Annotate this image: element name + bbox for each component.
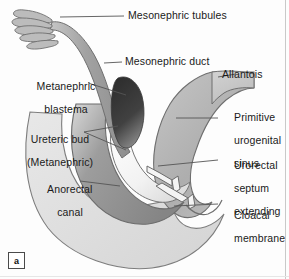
label-cloacal-membrane: Cloacal membrane xyxy=(222,198,285,256)
label-allantois: Allantois xyxy=(222,69,263,81)
label-metanephric-blastema-line2: blastema xyxy=(44,103,87,115)
figure-tag: a xyxy=(8,252,25,269)
leader-mesonephric-duct xyxy=(104,62,122,63)
right-border-rule xyxy=(285,0,286,279)
label-metanephric-blastema-line1: Metanephric xyxy=(37,80,96,92)
label-ureteric-bud: Ureteric bud (Metanephric) xyxy=(4,122,104,180)
label-anorectal-canal: Anorectal canal xyxy=(14,172,114,230)
label-ureteric-bud-line2: (Metanephric) xyxy=(27,156,93,168)
label-primitive-urogenital-sinus-line2: urogenital xyxy=(234,134,281,146)
label-urorectal-septum-line2: septum xyxy=(234,182,269,194)
label-cloacal-membrane-line1: Cloacal xyxy=(234,209,270,221)
label-mesonephric-tubules: Mesonephric tubules xyxy=(128,10,227,22)
label-anorectal-canal-line2: canal xyxy=(57,206,83,218)
label-anorectal-canal-line1: Anorectal xyxy=(47,183,92,195)
label-cloacal-membrane-line2: membrane xyxy=(234,232,285,244)
label-ureteric-bud-line1: Ureteric bud xyxy=(31,133,89,145)
mesonephric-tubules-shape xyxy=(12,10,58,49)
bottom-border-rule xyxy=(0,276,289,277)
leader-mesonephric-tubules xyxy=(60,16,124,17)
label-metanephric-blastema: Metanephric blastema xyxy=(12,69,108,127)
label-mesonephric-duct: Mesonephric duct xyxy=(125,56,209,68)
label-primitive-urogenital-sinus-line1: Primitive xyxy=(234,111,275,123)
label-urorectal-septum-line1: Urorectal xyxy=(234,159,278,171)
embryology-figure: Mesonephric tubules Mesonephric duct Met… xyxy=(0,0,289,279)
metanephric-blastema-shape xyxy=(111,77,144,148)
